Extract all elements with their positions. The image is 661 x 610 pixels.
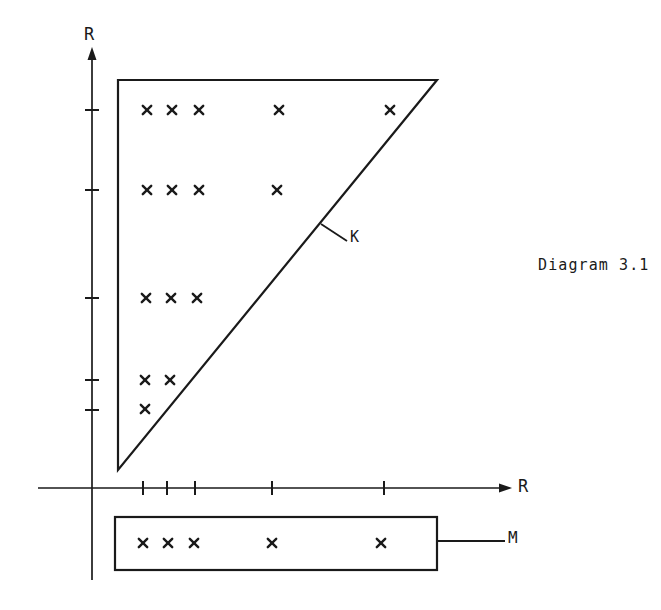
figure-caption: Diagram 3.1	[538, 256, 649, 274]
callout-leader-k	[321, 224, 347, 241]
x-axis-label: R	[518, 476, 529, 496]
y-axis-arrowhead	[88, 47, 97, 60]
x-axis-arrowhead	[499, 484, 512, 493]
y-axis-label: R	[84, 24, 95, 44]
region-k-triangle	[118, 80, 437, 470]
region-m-rectangle	[115, 517, 437, 570]
diagram-canvas	[0, 0, 661, 610]
callout-leader-lines	[321, 224, 505, 541]
y-axis-group	[85, 47, 99, 580]
diagram-page: R R K M Diagram 3.1	[0, 0, 661, 610]
region-k-label: K	[350, 228, 359, 246]
x-axis-group	[38, 481, 512, 495]
sample-points-k	[141, 106, 394, 413]
sample-points-m	[139, 539, 385, 547]
region-m-label: M	[508, 528, 518, 547]
